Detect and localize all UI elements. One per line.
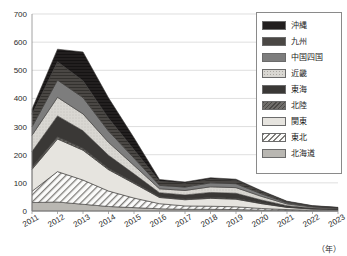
legend-item: 中国四国 bbox=[262, 49, 338, 65]
x-tick-label: 2017 bbox=[174, 212, 194, 229]
x-tick-label: 2014 bbox=[97, 212, 117, 229]
x-axis-tick-labels: 2011201220132014201520162017201820192020… bbox=[21, 211, 347, 229]
x-tick-label: 2022 bbox=[301, 212, 321, 229]
legend-item: 東海 bbox=[262, 81, 338, 97]
chart-legend: 沖縄九州中国四国近畿東海北陸関東東北北海道 bbox=[256, 12, 342, 174]
legend-item-label: 近畿 bbox=[291, 69, 307, 78]
stacked-area-chart: 0100200300400500600700 20112012201320142… bbox=[0, 0, 347, 256]
y-tick-label: 700 bbox=[14, 10, 28, 19]
y-tick-label: 100 bbox=[14, 179, 28, 188]
legend-item-label: 北陸 bbox=[291, 101, 307, 110]
legend-swatch-kyushu-icon bbox=[262, 37, 286, 46]
legend-item: 関東 bbox=[262, 113, 338, 129]
x-tick-label: 2023 bbox=[327, 212, 347, 229]
y-tick-label: 600 bbox=[14, 38, 28, 47]
legend-item-label: 東北 bbox=[291, 133, 307, 142]
y-tick-label: 400 bbox=[14, 94, 28, 103]
y-tick-label: 300 bbox=[14, 123, 28, 132]
legend-swatch-tokai-icon bbox=[262, 85, 286, 94]
x-tick-label: 2021 bbox=[276, 212, 296, 229]
legend-item-label: 九州 bbox=[291, 37, 307, 46]
legend-item: 沖縄 bbox=[262, 17, 338, 33]
legend-swatch-hokuriku-icon bbox=[262, 101, 286, 110]
y-tick-label: 200 bbox=[14, 151, 28, 160]
y-axis-tick-labels: 0100200300400500600700 bbox=[14, 10, 28, 216]
legend-item: 近畿 bbox=[262, 65, 338, 81]
legend-item: 九州 bbox=[262, 33, 338, 49]
x-tick-label: 2013 bbox=[72, 212, 92, 229]
legend-swatch-kanto-icon bbox=[262, 117, 286, 126]
legend-item-label: 中国四国 bbox=[291, 53, 323, 62]
legend-swatch-okinawa-icon bbox=[262, 21, 286, 30]
x-tick-label: 2015 bbox=[123, 212, 143, 229]
legend-swatch-hokkaido-icon bbox=[262, 149, 286, 158]
legend-item-label: 関東 bbox=[291, 117, 307, 126]
x-tick-label: 2020 bbox=[250, 212, 270, 229]
legend-swatch-tohoku-icon bbox=[262, 133, 286, 142]
x-axis-unit-label: （年） bbox=[317, 243, 341, 254]
y-tick-label: 0 bbox=[23, 207, 28, 216]
legend-item: 北陸 bbox=[262, 97, 338, 113]
legend-item-label: 北海道 bbox=[291, 149, 315, 158]
y-tick-label: 500 bbox=[14, 66, 28, 75]
legend-item: 東北 bbox=[262, 129, 338, 145]
legend-swatch-kinki-icon bbox=[262, 69, 286, 78]
legend-item-label: 沖縄 bbox=[291, 21, 307, 30]
x-tick-label: 2018 bbox=[199, 212, 219, 229]
x-tick-label: 2012 bbox=[46, 212, 66, 229]
legend-item: 北海道 bbox=[262, 145, 338, 161]
x-tick-label: 2016 bbox=[148, 212, 168, 229]
legend-swatch-chugoku-shikoku-icon bbox=[262, 53, 286, 62]
x-tick-label: 2019 bbox=[225, 212, 245, 229]
legend-item-label: 東海 bbox=[291, 85, 307, 94]
